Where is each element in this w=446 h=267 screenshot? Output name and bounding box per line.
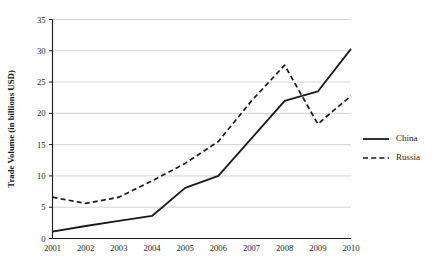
x-axis-tick-label: 2009 bbox=[309, 243, 326, 253]
x-axis-tick-label: 2001 bbox=[44, 243, 61, 253]
y-axis-tick-label: 15 bbox=[37, 140, 46, 150]
x-axis-tick-label: 2006 bbox=[210, 243, 228, 253]
y-axis-tick-label: 35 bbox=[37, 15, 46, 25]
x-axis-tick-label: 2005 bbox=[177, 243, 194, 253]
y-axis-tick-label: 25 bbox=[37, 77, 46, 87]
legend-label-russia: Russia bbox=[396, 152, 420, 162]
x-axis-tick-label: 2008 bbox=[276, 243, 293, 253]
x-axis-tick-label: 2003 bbox=[110, 243, 127, 253]
y-axis-tick-label: 20 bbox=[37, 108, 46, 118]
y-axis-tick-label: 5 bbox=[41, 202, 45, 212]
x-axis-tick-label: 2002 bbox=[77, 243, 94, 253]
y-axis-tick-label: 30 bbox=[37, 46, 46, 56]
chart-canvas: 05101520253035 2001200220032004200520062… bbox=[0, 0, 446, 267]
y-axis-title: Trade Volume (in billions USD) bbox=[6, 70, 16, 188]
x-axis-tick-label: 2007 bbox=[243, 243, 261, 253]
x-axis-tick-label: 2010 bbox=[342, 243, 359, 253]
legend-label-china: China bbox=[396, 133, 418, 143]
y-axis-tick-label: 10 bbox=[37, 171, 46, 181]
line-chart: 05101520253035 2001200220032004200520062… bbox=[0, 0, 446, 267]
x-axis-tick-label: 2004 bbox=[143, 243, 161, 253]
chart-background bbox=[0, 0, 446, 267]
